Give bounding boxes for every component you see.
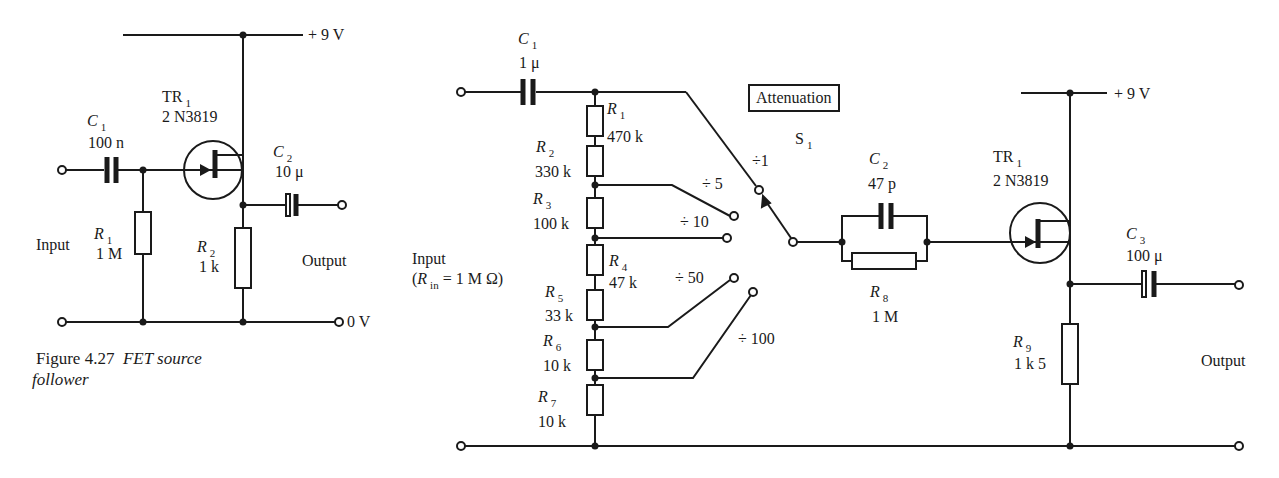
r1-value: 1 M	[96, 245, 122, 263]
rr1-label: R1	[607, 100, 625, 119]
r2-label: R2	[197, 238, 215, 257]
supply-label-right: + 9 V	[1114, 85, 1150, 103]
rr9-label: R9	[1013, 333, 1031, 352]
rr2-label: R2	[536, 138, 554, 157]
c1-sub: 1	[101, 121, 107, 133]
rc3-value: 100 μ	[1126, 247, 1163, 265]
r1-label: R1	[94, 225, 112, 244]
figure-caption-line2: follower	[32, 369, 89, 390]
c2-name: C	[273, 143, 284, 160]
rin-value: = 1 M Ω)	[443, 270, 503, 287]
rr5-name: R	[545, 283, 555, 300]
switch-sub: 1	[807, 139, 813, 151]
rc1-label: C1	[518, 30, 537, 49]
c2-value: 10 μ	[275, 163, 304, 181]
rtr1-name: TR	[993, 148, 1013, 165]
rr4-value: 47 k	[609, 274, 637, 292]
rr2-value: 330 k	[535, 163, 571, 181]
rc2-label: C2	[869, 150, 888, 169]
ratio-5: ÷ 5	[702, 175, 723, 193]
tr1-label: TR1	[162, 88, 191, 107]
rc1-name: C	[518, 30, 529, 47]
rr4-sub: 4	[622, 261, 628, 273]
rr9-value: 1 k 5	[1014, 355, 1046, 373]
rr8-label: R8	[870, 283, 888, 302]
rr2-sub: 2	[549, 147, 555, 159]
rc3-name: C	[1126, 225, 1137, 242]
rr3-sub: 3	[546, 199, 552, 211]
caption-number: Figure 4.27	[36, 349, 114, 368]
caption-title: FET source	[123, 349, 202, 368]
rc1-sub: 1	[532, 39, 538, 51]
rin-sub: in	[430, 279, 439, 291]
rr1-sub: 1	[620, 109, 626, 121]
r2-value: 1 k	[199, 258, 219, 276]
rr6-label: R6	[543, 332, 561, 351]
rr8-sub: 8	[883, 292, 889, 304]
tr1-part: 2 N3819	[162, 108, 218, 126]
rr9-name: R	[1013, 333, 1023, 350]
rr1-name: R	[607, 100, 617, 117]
rr5-value: 33 k	[545, 307, 573, 325]
attenuation-box: Attenuation	[748, 84, 840, 112]
switch-label: S1	[795, 130, 812, 149]
r1-name: R	[94, 225, 104, 242]
ground-label: 0 V	[347, 313, 370, 331]
schematic-wiring	[0, 0, 1279, 478]
rtr1-part: 2 N3819	[993, 172, 1049, 190]
rr7-value: 10 k	[538, 413, 566, 431]
rc2-value: 47 p	[868, 175, 896, 193]
rr6-name: R	[543, 332, 553, 349]
rr8-name: R	[870, 283, 880, 300]
rr2-name: R	[536, 138, 546, 155]
c2-label: C2	[273, 143, 292, 162]
output-label: Output	[302, 252, 346, 270]
rc2-name: C	[869, 150, 880, 167]
rc2-sub: 2	[883, 159, 889, 171]
ratio-10: ÷ 10	[680, 213, 709, 231]
rr8-value: 1 M	[872, 308, 898, 326]
c1-label: C1	[87, 112, 106, 131]
rin-name: R	[417, 270, 427, 287]
rr5-sub: 5	[558, 292, 564, 304]
rc3-sub: 3	[1140, 234, 1146, 246]
rtr1-sub: 1	[1016, 157, 1022, 169]
ratio-100: ÷ 100	[738, 330, 775, 348]
output-label-right: Output	[1201, 352, 1245, 370]
rc3-label: C3	[1126, 225, 1145, 244]
input-label: Input	[36, 236, 70, 254]
rr4-label: R4	[609, 252, 627, 271]
ratio-50: ÷ 50	[675, 269, 704, 287]
rr5-label: R5	[545, 283, 563, 302]
rr3-label: R3	[533, 190, 551, 209]
rr3-name: R	[533, 190, 543, 207]
input-rin-label: (Rin = 1 M Ω)	[412, 270, 503, 289]
rr3-value: 100 k	[533, 215, 569, 233]
figure-caption: Figure 4.27 FET source	[36, 348, 202, 369]
c1-name: C	[87, 112, 98, 129]
supply-label: + 9 V	[308, 26, 344, 44]
rr1-value: 470 k	[607, 128, 643, 146]
input-label-right: Input	[412, 250, 446, 268]
tr1-name: TR	[162, 88, 182, 105]
rtr1-label: TR1	[993, 148, 1022, 167]
rr7-name: R	[538, 388, 548, 405]
c1-value: 100 n	[88, 134, 124, 152]
rr7-label: R7	[538, 388, 556, 407]
rc1-value: 1 μ	[519, 54, 540, 72]
rr6-value: 10 k	[543, 357, 571, 375]
ratio-1: ÷1	[752, 152, 769, 170]
rr6-sub: 6	[556, 341, 562, 353]
switch-name: S	[795, 130, 804, 147]
rr4-name: R	[609, 252, 619, 269]
rr9-sub: 9	[1026, 342, 1032, 354]
rr7-sub: 7	[551, 397, 557, 409]
r2-name: R	[197, 238, 207, 255]
